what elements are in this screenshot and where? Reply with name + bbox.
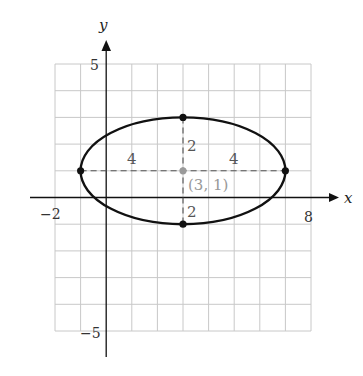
left-half-axis-label: 4 xyxy=(127,150,137,168)
upper-half-axis-label: 2 xyxy=(187,137,197,155)
center-label: (3, 1) xyxy=(188,176,228,194)
ellipse-diagram: x y 5 −5 −2 8 4 4 2 2 (3, 1) xyxy=(0,0,363,376)
y-axis-arrow-icon xyxy=(102,40,112,51)
lower-half-axis-label: 2 xyxy=(187,203,197,221)
bottom-covertex-point xyxy=(179,221,186,228)
center-point xyxy=(179,167,186,174)
top-covertex-point xyxy=(179,114,186,121)
x-min-tick-label: −2 xyxy=(40,206,61,222)
y-axis-label: y xyxy=(98,16,108,34)
right-vertex-point xyxy=(282,167,289,174)
y-max-tick-label: 5 xyxy=(90,57,99,73)
x-axis-label: x xyxy=(344,189,353,207)
y-min-tick-label: −5 xyxy=(80,325,101,341)
y-axis xyxy=(102,40,112,357)
right-half-axis-label: 4 xyxy=(229,150,239,168)
x-axis-arrow-icon xyxy=(329,193,339,202)
x-max-tick-label: 8 xyxy=(304,209,313,225)
x-axis xyxy=(30,193,339,202)
left-vertex-point xyxy=(77,167,84,174)
